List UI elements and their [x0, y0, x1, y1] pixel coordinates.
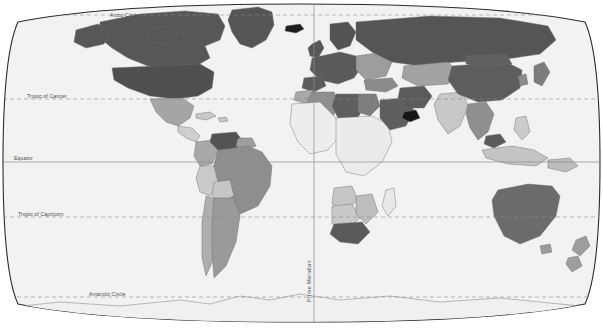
label-antarctic-circle: Antarctic Circle: [89, 291, 125, 297]
label-arctic-circle: Arctic Circle: [110, 12, 139, 18]
country-korea: [518, 74, 528, 86]
label-tropic-of-cancer: Tropic of Cancer: [27, 93, 67, 99]
country-tasmania: [540, 244, 552, 254]
label-prime-meridian: Prime Meridian: [306, 260, 312, 302]
label-tropic-of-capricorn: Tropic of Capricorn: [18, 211, 64, 217]
label-equator: Equator: [14, 155, 33, 161]
world-map-svg: Arctic Circle Tropic of Cancer Equator T…: [0, 0, 603, 328]
world-map-container: Arctic Circle Tropic of Cancer Equator T…: [0, 0, 603, 328]
